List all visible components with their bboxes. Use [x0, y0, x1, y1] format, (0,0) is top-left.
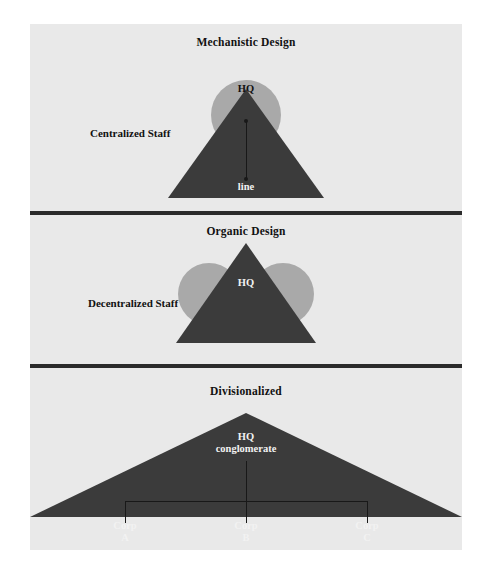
diagram-canvas: Mechanistic Design Centralized Staff HQ … — [30, 24, 462, 550]
node-label-corp-b: Corp B — [216, 520, 276, 544]
node-label-hq-conglomerate: HQ conglomerate — [206, 431, 286, 455]
node-label-hq-mechanistic: HQ — [216, 83, 276, 95]
node-label-corp-a: Corp A — [95, 520, 155, 544]
connector-node-dot-top — [244, 119, 248, 123]
node-label-line: line — [216, 181, 276, 193]
hierarchy-triangle-organic — [176, 243, 316, 343]
label-decentralized-staff: Decentralized Staff — [88, 297, 178, 309]
node-label-hq-organic: HQ — [216, 277, 276, 289]
connector-hq-trunk — [246, 461, 247, 501]
panel-title-mechanistic: Mechanistic Design — [30, 36, 462, 48]
panel-title-divisionalized: Divisionalized — [30, 385, 462, 397]
panel-title-organic: Organic Design — [30, 225, 462, 237]
label-centralized-staff: Centralized Staff — [90, 127, 170, 139]
panel-organic-design: Organic Design Decentralized Staff HQ — [30, 215, 462, 364]
panel-divisionalized: Divisionalized HQ conglomerate Corp A Co… — [30, 368, 462, 550]
connector-hq-to-line — [246, 121, 247, 179]
node-label-corp-c: Corp C — [337, 520, 397, 544]
panel-mechanistic-design: Mechanistic Design Centralized Staff HQ … — [30, 24, 462, 211]
